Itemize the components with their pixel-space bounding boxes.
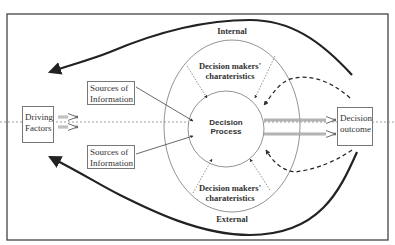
driving-factors-line2: Factors	[25, 123, 52, 134]
dm-characteristics-top-line2: charateristics	[190, 72, 270, 82]
decision-process-line2: Process	[196, 127, 256, 136]
internal-label: Internal	[200, 27, 264, 37]
dm-characteristics-top: Decision makers' charateristics	[190, 62, 270, 82]
external-label: External	[200, 215, 264, 225]
decision-outcome-box: Decision outcome	[337, 107, 373, 146]
decision-outcome-line1: Decision	[340, 113, 371, 124]
sources-top-line2: Information	[90, 94, 132, 105]
sources-bottom-line2: Information	[90, 158, 132, 169]
dashed-feedback-top	[264, 77, 350, 105]
driving-factors-line1: Driving	[25, 112, 52, 123]
dashed-feedback-bottom	[266, 150, 352, 172]
sources-bottom-line1: Sources of	[90, 147, 132, 158]
decision-outcome-line2: outcome	[340, 124, 371, 135]
decision-process-label: Decision Process	[196, 118, 256, 136]
dm-characteristics-bottom-line2: charateristics	[190, 194, 270, 204]
dm-characteristics-bottom: Decision makers' charateristics	[190, 184, 270, 204]
driving-factors-box: Driving Factors	[22, 106, 54, 143]
sources-top-line1: Sources of	[90, 83, 132, 94]
sources-of-information-top-box: Sources of Information	[87, 81, 135, 105]
decision-process-line1: Decision	[196, 118, 256, 127]
sources-of-information-bottom-box: Sources of Information	[87, 145, 135, 169]
